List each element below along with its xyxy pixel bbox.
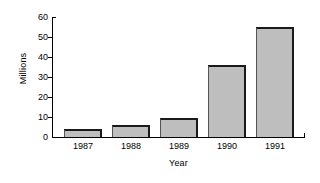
- bar-slot-1990: [205, 17, 249, 137]
- x-tick-label-1991: 1991: [253, 141, 297, 152]
- bar-1991[interactable]: [256, 27, 294, 137]
- bar-1987[interactable]: [64, 129, 102, 137]
- bar-1988[interactable]: [112, 125, 150, 137]
- bar-1990[interactable]: [208, 65, 246, 137]
- x-tick-label-1987: 1987: [61, 141, 105, 152]
- x-tick-label-1990: 1990: [205, 141, 249, 152]
- bar-1989[interactable]: [160, 118, 198, 137]
- y-axis-tick-labels: 60 50 40 30 20 10 0: [26, 0, 48, 183]
- y-tick-label-50: 50: [26, 33, 48, 42]
- plot-area: [53, 17, 305, 137]
- y-tick-label-40: 40: [26, 53, 48, 62]
- bar-slot-1987: [61, 17, 105, 137]
- y-tick-label-60: 60: [26, 13, 48, 22]
- x-axis-title: Year: [52, 158, 305, 169]
- bar-chart: Millions 60 50 40 30 20 10 0: [0, 0, 320, 183]
- y-tick-label-30: 30: [26, 73, 48, 82]
- x-tick-label-1988: 1988: [109, 141, 153, 152]
- bar-slot-1988: [109, 17, 153, 137]
- y-tick-label-0: 0: [26, 133, 48, 142]
- y-tick-label-20: 20: [26, 93, 48, 102]
- bar-slot-1991: [253, 17, 297, 137]
- y-tick-label-10: 10: [26, 113, 48, 122]
- bar-slot-1989: [157, 17, 201, 137]
- x-tick-label-1989: 1989: [157, 141, 201, 152]
- x-axis-line: [52, 137, 305, 138]
